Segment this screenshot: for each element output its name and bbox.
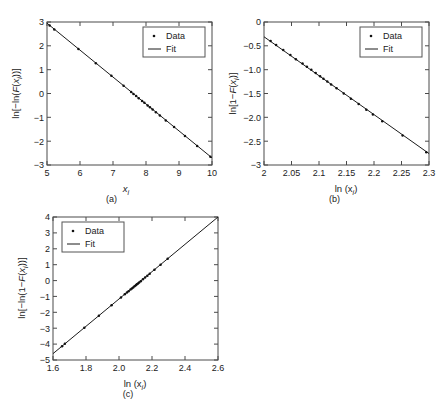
data-point [425,151,428,154]
y-axis-title-b: ln[1−F(xi)] [227,73,240,115]
y-axis-tick-labels-b: −3 −2.5 −2.0 −1.5 −1.0 −0.5 0 [243,17,261,170]
y-tick-c-5: 0 [45,276,50,286]
data-point [319,75,322,78]
x-tick-c-4: 2.4 [179,363,192,373]
data-point [148,272,151,275]
x-tick-c-3: 2.2 [146,363,159,373]
legend-fit-label-c: Fit [85,239,95,249]
data-point [209,155,212,158]
x-axis-tick-labels-a: 5 6 7 8 9 10 [44,168,217,178]
legend-data-marker-b [370,35,373,38]
x-tick-b-3: 2.15 [338,168,356,178]
data-point [196,145,199,148]
data-point [155,111,158,114]
data-point [98,314,101,317]
data-point [130,91,133,94]
x-tick-b-6: 2.3 [423,168,436,178]
data-point [77,48,80,51]
y-tick-c-9: 4 [45,212,50,222]
svg-text:ln[1−F(xi)]: ln[1−F(xi)] [227,73,240,115]
data-point [144,276,147,279]
data-point [289,54,292,57]
data-point [110,304,113,307]
y-axis-title-c-p0: ln[−ln(1− [16,281,27,318]
panel-c: −5 −4 −3 −2 −1 0 1 2 3 4 [8,203,248,411]
data-point [64,343,67,346]
data-point [322,77,325,80]
x-tick-a-5: 10 [207,168,217,178]
legend-data-label-a: Data [166,31,185,41]
data-point [124,293,127,296]
y-tick-c-3: −2 [40,308,50,318]
x-tick-a-3: 8 [143,168,148,178]
panel-c-plot: −5 −4 −3 −2 −1 0 1 2 3 4 [8,203,248,411]
y-tick-c-6: 1 [45,260,50,270]
data-point [166,258,169,261]
figure-container: −3 −2 −1 0 1 2 3 [0,0,446,411]
x-axis-tick-labels-c: 1.6 1.8 2.0 2.2 2.4 2.6 [47,363,225,373]
svg-text:ln[−ln(1−F(xi))]: ln[−ln(1−F(xi))] [16,257,29,318]
x-tick-b-5: 2.25 [393,168,411,178]
data-point [357,103,360,106]
y-tick-b-6: 0 [256,17,261,27]
data-point [381,120,384,123]
x-tick-c-2: 2.0 [113,363,126,373]
y-tick-b-2: −2.0 [243,113,261,123]
x-axis-title-c-tail: ) [143,378,146,389]
y-tick-a-4: 1 [39,65,44,75]
panel-a: −3 −2 −1 0 1 2 3 [0,0,223,205]
x-axis-tick-labels-b: 2 2.05 2.1 2.15 2.2 2.25 2.3 [261,168,435,178]
data-point [173,126,176,129]
data-point [149,106,152,109]
data-point [301,62,304,65]
y-tick-c-2: −3 [40,324,50,334]
panel-caption-b: (b) [223,194,446,204]
data-point [48,24,51,27]
data-point [275,44,278,47]
panel-caption-c: (c) [8,389,248,399]
y-tick-c-1: −4 [40,339,50,349]
data-point [110,75,113,78]
legend-a[interactable]: Data Fit [143,27,205,57]
x-tick-a-4: 9 [176,168,181,178]
data-point [141,100,144,103]
data-point [127,290,130,293]
data-point [326,80,329,83]
y-tick-b-3: −1.5 [243,89,261,99]
legend-b[interactable]: Data Fit [360,27,422,57]
y-tick-b-5: −0.5 [243,41,261,51]
data-point [143,102,146,105]
x-tick-a-0: 5 [44,168,49,178]
x-tick-b-1: 2.05 [283,168,301,178]
data-point [343,92,346,95]
legend-data-label-b: Data [383,31,402,41]
legend-c[interactable]: Data Fit [62,222,124,252]
svg-text:ln[−ln(F(xi))]: ln[−ln(F(xi))] [10,68,23,118]
x-tick-b-2: 2.1 [313,168,326,178]
y-tick-c-4: −1 [40,292,50,302]
data-point [137,97,140,100]
y-tick-a-6: 3 [39,17,44,27]
y-tick-b-0: −3 [251,160,261,170]
data-point [122,85,125,88]
y-tick-b-1: −2.5 [243,137,261,147]
data-point [365,108,368,111]
data-point [306,66,309,69]
x-axis-title-b-tail: ) [354,183,357,194]
legend-fit-label-b: Fit [383,44,393,54]
y-tick-b-4: −1.0 [243,65,261,75]
x-tick-c-5: 2.6 [212,363,225,373]
x-tick-a-2: 7 [110,168,115,178]
panel-b: −3 −2.5 −2.0 −1.5 −1.0 −0.5 0 [223,0,446,205]
data-point [165,119,168,122]
x-axis-title-b-main: ln (x [335,183,353,194]
panel-a-plot: −3 −2 −1 0 1 2 3 [0,0,223,205]
data-point [142,278,145,281]
y-axis-title-b-p0: ln[1− [227,93,238,114]
y-axis-tick-labels-c: −5 −4 −3 −2 −1 0 1 2 3 4 [40,212,50,365]
y-axis-title-a: ln[−ln(F(xi))] [10,68,23,118]
data-point [401,134,404,137]
data-point [53,28,56,31]
x-tick-b-0: 2 [261,168,266,178]
data-point [132,93,135,96]
